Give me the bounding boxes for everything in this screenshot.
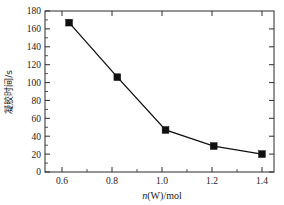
y-tick-label-60: 60 xyxy=(32,114,42,124)
y-tick-label-20: 20 xyxy=(32,150,42,160)
y-tick-label-100: 100 xyxy=(27,78,42,88)
x-tick-label-1p0: 1.0 xyxy=(156,176,168,186)
x-tick-label-1p4: 1.4 xyxy=(256,176,268,186)
y-tick-label-180: 180 xyxy=(27,6,42,16)
y-tick-label-80: 80 xyxy=(32,96,42,106)
data-point-marker xyxy=(210,143,217,150)
y-tick-label-160: 160 xyxy=(27,24,42,34)
data-point-marker xyxy=(162,127,169,134)
x-tick-label-0p8: 0.8 xyxy=(106,176,118,186)
x-axis-title-units: (W)/mol xyxy=(147,190,182,202)
y-tick-label-40: 40 xyxy=(32,132,42,142)
data-point-marker xyxy=(259,151,266,158)
x-axis-title: n(W)/mol xyxy=(142,190,182,202)
chart-figure: 0 20 40 60 80 100 120 140 160 180 xyxy=(0,0,284,205)
data-point-marker xyxy=(66,19,73,26)
y-axis-title: 凝胶时间/s xyxy=(3,70,14,114)
x-tick-label-0p6: 0.6 xyxy=(56,176,68,186)
gel-time-line-chart: 0 20 40 60 80 100 120 140 160 180 xyxy=(0,0,284,205)
y-tick-label-140: 140 xyxy=(27,42,42,52)
y-tick-label-120: 120 xyxy=(27,60,42,70)
y-tick-label-0: 0 xyxy=(36,167,41,177)
x-tick-label-1p2: 1.2 xyxy=(206,176,218,186)
data-point-marker xyxy=(114,74,121,81)
